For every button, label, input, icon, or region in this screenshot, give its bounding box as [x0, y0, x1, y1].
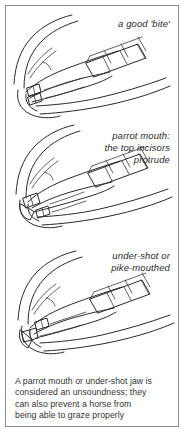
label-parrot-mouth: parrot mouth: the top incisors protrude — [105, 130, 171, 167]
panel-under-shot: under-shot or pike-mouthed — [6, 234, 178, 362]
horse-dentition-figure: a good 'bite' — [0, 0, 186, 433]
caption-line: can also prevent a horse from — [15, 399, 171, 410]
figure-frame: a good 'bite' — [5, 5, 179, 427]
panel-good-bite: a good 'bite' — [6, 6, 178, 124]
panel-parrot-mouth: parrot mouth: the top incisors protrude — [6, 118, 178, 238]
caption-line: being able to graze properly — [15, 410, 171, 421]
figure-caption: A parrot mouth or under-shot jaw is cons… — [15, 376, 171, 422]
label-under-shot: under-shot or pike-mouthed — [111, 250, 170, 274]
caption-line: considered an unsoundness; they — [15, 387, 171, 398]
caption-line: A parrot mouth or under-shot jaw is — [15, 376, 171, 387]
label-good-bite: a good 'bite' — [118, 18, 170, 30]
